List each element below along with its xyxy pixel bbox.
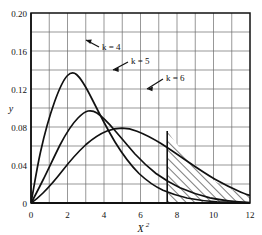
y-tick-label-0.04: 0.04	[11, 161, 27, 171]
annotation-k5-label: k = 5	[131, 56, 150, 66]
x-tick-label-8: 8	[175, 210, 180, 220]
x-tick-label-10: 10	[209, 210, 219, 220]
y-tick-label-0: 0	[23, 199, 28, 209]
x-tick-label-2: 2	[65, 210, 70, 220]
x-axis-title-base: X	[136, 223, 144, 234]
y-tick-label-0.12: 0.12	[11, 85, 27, 95]
y-tick-label-0.20: 0.20	[11, 9, 27, 19]
y-tick-label-0.16: 0.16	[11, 47, 27, 57]
annotation-k6-label: k = 6	[166, 73, 185, 83]
y-tick-label-0.08: 0.08	[11, 123, 27, 133]
chart-svg: 0.20 0.16 0.12 0.08 0.04 0 0 2 4 6 8 10 …	[0, 0, 262, 235]
x-tick-label-4: 4	[102, 210, 107, 220]
x-tick-labels: 0 2 4 6 8 10 12	[29, 210, 255, 220]
x-tick-label-6: 6	[138, 210, 143, 220]
y-tick-labels: 0.20 0.16 0.12 0.08 0.04 0	[11, 9, 27, 209]
x-tick-label-0: 0	[29, 210, 34, 220]
y-axis-title: y	[8, 103, 14, 114]
x-axis-title-superscript: 2	[146, 221, 150, 229]
annotation-k4-label: k = 4	[102, 42, 121, 52]
chi-square-distribution-chart: 0.20 0.16 0.12 0.08 0.04 0 0 2 4 6 8 10 …	[0, 0, 262, 235]
x-axis-title: X 2	[136, 221, 149, 234]
x-tick-label-12: 12	[246, 210, 255, 220]
